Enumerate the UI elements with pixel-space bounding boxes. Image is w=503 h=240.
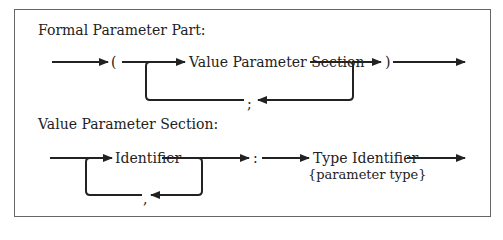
value-parameter-section-heading: Value Parameter Section: — [38, 116, 218, 132]
semicolon-separator: ; — [247, 96, 252, 112]
close-paren-symbol: ) — [385, 54, 390, 70]
colon-symbol: : — [253, 150, 258, 166]
type-identifier-node: Type Identifier — [313, 150, 418, 166]
identifier-node: Identifier — [115, 150, 181, 166]
comma-separator: , — [143, 191, 147, 207]
value-parameter-section-node: Value Parameter Section — [189, 54, 364, 70]
parameter-type-note: {parameter type} — [308, 167, 426, 183]
open-paren-symbol: ( — [111, 54, 116, 70]
formal-parameter-part-heading: Formal Parameter Part: — [38, 22, 206, 38]
